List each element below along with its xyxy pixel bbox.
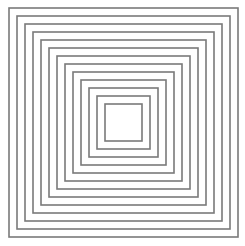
square-9	[73, 72, 174, 173]
square-8	[65, 64, 182, 181]
square-1	[9, 8, 238, 237]
square-11	[89, 88, 158, 157]
square-3	[25, 24, 222, 221]
square-7	[57, 56, 190, 189]
square-6	[49, 48, 198, 197]
square-13	[105, 104, 142, 141]
concentric-squares-diagram	[0, 0, 245, 246]
square-4	[33, 32, 214, 213]
square-10	[81, 80, 166, 165]
